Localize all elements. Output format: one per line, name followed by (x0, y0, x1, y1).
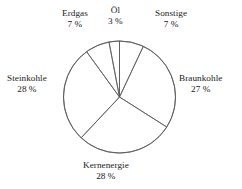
pie-chart-figure: Sonstige7 %Braunkohle27 %Kernenergie28 %… (0, 0, 242, 189)
slice-label-value-erdgas: 7 % (62, 19, 88, 30)
slice-label-kernenergie: Kernenergie28 % (83, 160, 129, 183)
slice-label-value-kernenergie: 28 % (83, 171, 129, 182)
pie-slices-group (64, 41, 176, 153)
pie-slice-steinkohle[interactable] (64, 52, 120, 138)
pie-slice-kernenergie[interactable] (81, 97, 167, 153)
slice-label-sonstige: Sonstige7 % (155, 8, 187, 31)
slice-label-value-sonstige: 7 % (155, 19, 187, 30)
slice-label-erdgas: Erdgas7 % (62, 8, 88, 31)
pie-slice--l[interactable] (109, 41, 119, 97)
slice-label-name-braunkohle: Braunkohle (179, 73, 222, 84)
slice-label-braunkohle: Braunkohle27 % (179, 73, 222, 96)
slice-label-name-kernenergie: Kernenergie (83, 160, 129, 171)
slice-label-name-sonstige: Sonstige (155, 8, 187, 19)
slice-label-steinkohle: Steinkohle28 % (7, 73, 47, 96)
slice-label-name-erdgas: Erdgas (62, 8, 88, 19)
slice-label-name-steinkohle: Steinkohle (7, 73, 47, 84)
slice-label-value-braunkohle: 27 % (179, 84, 222, 95)
slice-label-value--l: 3 % (108, 16, 123, 27)
slice-label--l: Öl3 % (108, 5, 123, 28)
slice-label-name--l: Öl (108, 5, 123, 16)
slice-label-value-steinkohle: 28 % (7, 84, 47, 95)
